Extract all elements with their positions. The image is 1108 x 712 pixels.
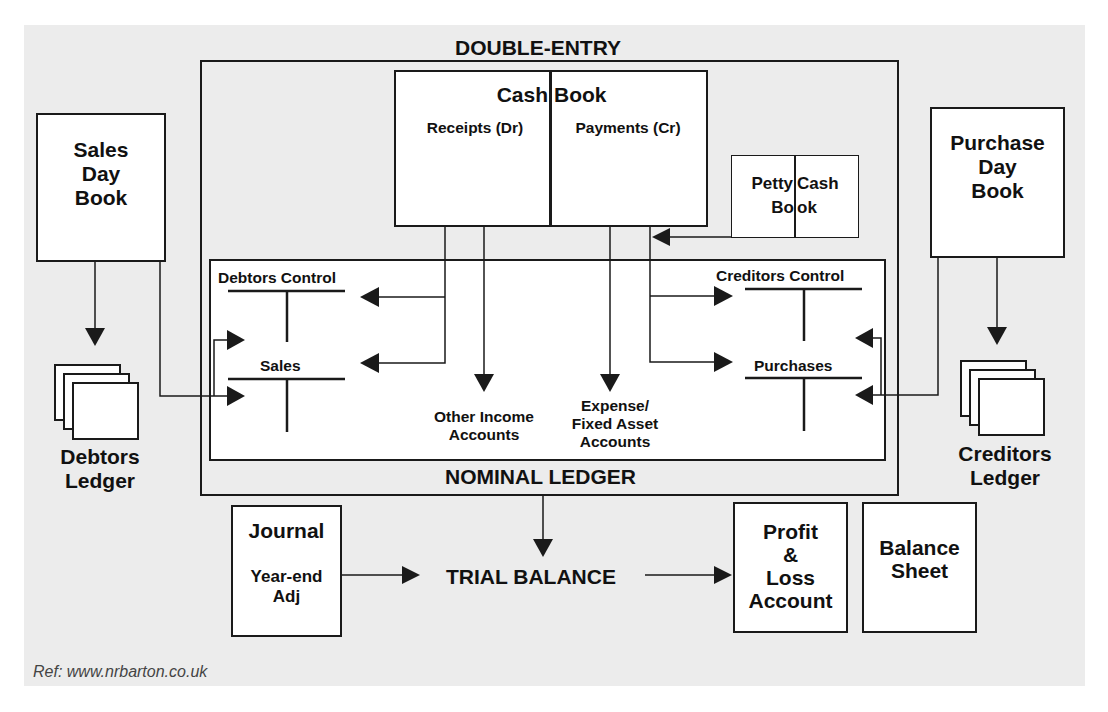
- reference-text: Ref: www.nrbarton.co.uk: [33, 663, 207, 681]
- arrowheads: [85, 228, 1007, 584]
- connector-lines: [0, 0, 1108, 712]
